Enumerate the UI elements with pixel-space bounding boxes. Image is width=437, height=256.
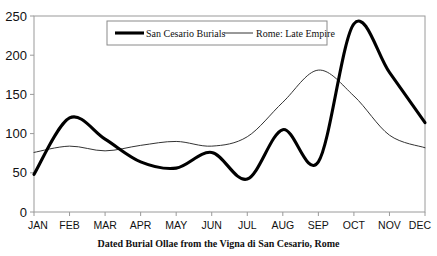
chart-legend: San Cesario Burials Rome: Late Empire: [107, 21, 335, 45]
x-tick-label-nov: NOV: [378, 219, 401, 231]
x-tick-label-oct: OCT: [343, 219, 366, 231]
y-tick-label-250: 250: [5, 9, 27, 24]
x-tick-label-jun: JUN: [202, 219, 222, 231]
legend-label-rome-late-empire: Rome: Late Empire: [256, 28, 335, 39]
x-tick-label-dec: DEC: [409, 219, 432, 231]
x-tick-label-apr: APR: [130, 219, 152, 231]
y-tick-label-50: 50: [13, 165, 27, 180]
x-tick-label-aug: AUG: [271, 219, 294, 231]
chart-svg: 050100150200250 JANFEBMARAPRMAYJUNJULAUG…: [0, 0, 437, 256]
legend-label-san-cesario-burials: San Cesario Burials: [146, 28, 226, 39]
y-tick-label-100: 100: [5, 126, 27, 141]
chart-container: 050100150200250 JANFEBMARAPRMAYJUNJULAUG…: [0, 0, 437, 256]
x-tick-label-jul: JUL: [238, 219, 257, 231]
x-tick-label-sep: SEP: [308, 219, 329, 231]
x-tick-label-jan: JAN: [28, 219, 48, 231]
y-tick-label-0: 0: [20, 205, 27, 220]
x-tick-label-mar: MAR: [93, 219, 117, 231]
x-tick-label-feb: FEB: [59, 219, 79, 231]
y-tick-label-150: 150: [5, 87, 27, 102]
y-tick-label-200: 200: [5, 48, 27, 63]
x-tick-label-may: MAY: [165, 219, 187, 231]
chart-caption: Dated Burial Ollae from the Vigna di San…: [97, 238, 340, 249]
